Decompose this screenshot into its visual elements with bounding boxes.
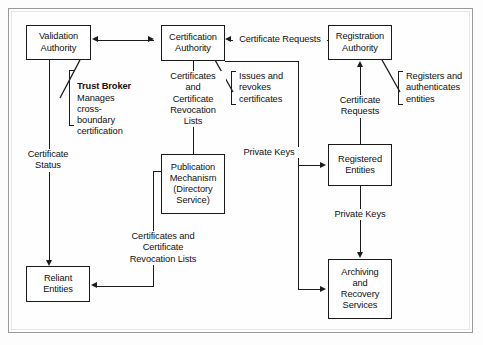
edge-ca-ar-arrowhead bbox=[320, 286, 326, 292]
edge-label-certificate-requests-ra-ca: Certificate Requests bbox=[233, 34, 327, 45]
edge-ca-re-seg-horizontal-bottom bbox=[298, 165, 322, 166]
edge-label-certificate-requests-re-ra: Certificate Requests bbox=[329, 95, 391, 118]
edge-pub-reliant-vertical bbox=[153, 171, 154, 287]
edge-ra-ca-arrowhead bbox=[225, 36, 231, 42]
callout-registers-authenticates-text: Registers and authenticates entities bbox=[406, 71, 462, 105]
edge-pub-reliant-horizontal bbox=[97, 286, 154, 287]
edge-va-ca-arrow-right bbox=[148, 36, 154, 42]
edge-re-ar-arrowhead bbox=[357, 252, 363, 258]
edge-re-ra-arrowhead bbox=[357, 61, 363, 67]
callout-trust-broker: Trust Broker Manages cross- boundary cer… bbox=[69, 70, 131, 126]
node-reliant-entities-label: Reliant Entities bbox=[43, 273, 73, 295]
node-publication-mechanism-label: Publication Mechanism (Directory Service… bbox=[170, 162, 217, 207]
edge-ca-ar-seg-vertical bbox=[298, 164, 299, 289]
edge-pub-reliant-arrowhead bbox=[91, 282, 97, 288]
edge-label-certificate-status: Certificate Status bbox=[17, 149, 79, 172]
edge-label-certificates-crl-pub-reliant: Certificates and Certificate Revocation … bbox=[107, 231, 219, 265]
edge-label-private-keys-re-ar: Private Keys bbox=[329, 209, 391, 220]
edge-va-ca-line bbox=[98, 40, 154, 41]
node-certification-authority-label: Certification Authority bbox=[169, 32, 217, 54]
edge-ca-re-arrowhead bbox=[320, 162, 326, 168]
callout-bracket bbox=[69, 70, 74, 126]
edge-label-certificates-crl-ca-pub: Certificates and Certificate Revocation … bbox=[160, 71, 226, 127]
edge-va-ca-arrow-left bbox=[92, 36, 98, 42]
callout-trust-broker-heading: Trust Broker bbox=[77, 81, 131, 91]
node-registration-authority[interactable]: Registration Authority bbox=[328, 25, 392, 60]
node-validation-authority-label: Validation Authority bbox=[39, 31, 78, 53]
diagram-canvas: Validation Authority Certification Autho… bbox=[0, 0, 483, 345]
callout-issues-revokes: Issues and revokes certificates bbox=[231, 71, 283, 105]
node-reliant-entities[interactable]: Reliant Entities bbox=[26, 266, 90, 302]
node-validation-authority[interactable]: Validation Authority bbox=[26, 25, 91, 60]
callout-issues-revokes-text: Issues and revokes certificates bbox=[239, 71, 283, 105]
node-registration-authority-label: Registration Authority bbox=[336, 31, 384, 53]
callout-bracket bbox=[231, 71, 236, 105]
node-archiving-recovery[interactable]: Archiving and Recovery Services bbox=[328, 259, 392, 319]
callout-registers-authenticates: Registers and authenticates entities bbox=[398, 71, 462, 105]
callout-trust-broker-body: Manages cross- boundary certification bbox=[77, 93, 123, 137]
node-certification-authority[interactable]: Certification Authority bbox=[161, 25, 225, 61]
node-registered-entities-label: Registered Entities bbox=[338, 154, 382, 176]
callout-trust-broker-text: Trust Broker Manages cross- boundary cer… bbox=[77, 70, 131, 126]
callout-bracket bbox=[398, 71, 403, 105]
node-publication-mechanism[interactable]: Publication Mechanism (Directory Service… bbox=[161, 154, 225, 214]
figure-frame: Validation Authority Certification Autho… bbox=[8, 8, 473, 333]
node-archiving-recovery-label: Archiving and Recovery Services bbox=[341, 267, 379, 312]
edge-label-private-keys-ca-re: Private Keys bbox=[239, 147, 299, 158]
edge-ca-ar-seg-horizontal bbox=[298, 289, 322, 290]
node-registered-entities[interactable]: Registered Entities bbox=[328, 144, 392, 186]
